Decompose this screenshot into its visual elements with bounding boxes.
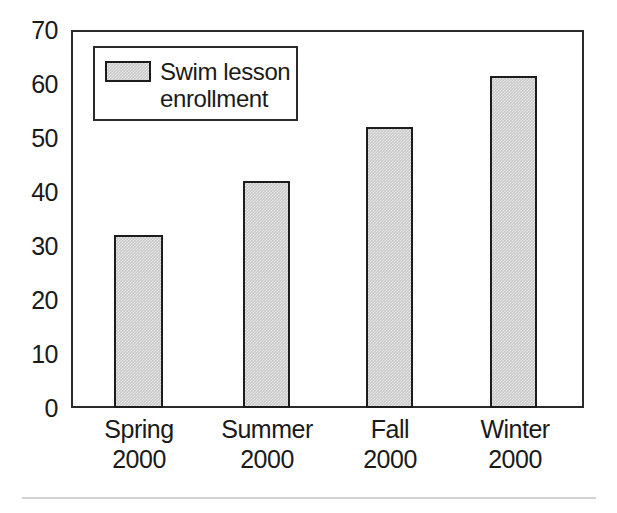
bar-chart-figure: 70 60 50 40 30 20 10 0 Swim lesson enrol… (0, 0, 617, 513)
y-tick-label-10: 10 (31, 342, 58, 367)
y-tick-label-0: 0 (45, 396, 58, 421)
x-category-year: 2000 (206, 444, 328, 474)
y-tick-label-40: 40 (31, 180, 58, 205)
y-axis: 70 60 50 40 30 20 10 0 (0, 0, 71, 513)
bar-summer-2000[interactable] (243, 181, 290, 408)
x-category-name: Fall (330, 414, 450, 444)
x-category-winter: Winter 2000 (454, 414, 576, 474)
bar-spring-2000[interactable] (114, 235, 163, 408)
bar-fall-2000[interactable] (366, 127, 413, 408)
x-category-name: Winter (454, 414, 576, 444)
footer-divider (22, 497, 596, 499)
x-category-name: Summer (206, 414, 328, 444)
x-category-year: 2000 (454, 444, 576, 474)
legend-swatch-icon (105, 61, 151, 82)
legend-item-label: Swim lesson enrollment (160, 58, 290, 112)
bar-winter-2000[interactable] (490, 76, 537, 408)
x-category-fall: Fall 2000 (330, 414, 450, 474)
x-category-year: 2000 (79, 444, 199, 474)
x-category-spring: Spring 2000 (79, 414, 199, 474)
legend: Swim lesson enrollment (93, 46, 298, 121)
x-category-year: 2000 (330, 444, 450, 474)
x-category-name: Spring (79, 414, 199, 444)
x-category-summer: Summer 2000 (206, 414, 328, 474)
x-axis: Spring 2000 Summer 2000 Fall 2000 Winter… (71, 414, 584, 484)
legend-item-swim-lesson-enrollment: Swim lesson enrollment (105, 58, 296, 112)
y-tick-label-70: 70 (31, 18, 58, 43)
y-tick-label-30: 30 (31, 234, 58, 259)
y-tick-label-60: 60 (31, 72, 58, 97)
y-tick-label-20: 20 (31, 288, 58, 313)
y-tick-label-50: 50 (31, 126, 58, 151)
